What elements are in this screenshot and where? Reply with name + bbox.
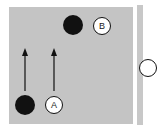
arrow-up-icon	[51, 48, 57, 91]
label-a: A	[51, 100, 57, 110]
filled-dot-a	[15, 95, 35, 115]
filled-dot-b	[63, 15, 83, 35]
side-open-circle	[139, 59, 157, 77]
label-b: B	[99, 21, 105, 31]
arrow-up-icon	[22, 48, 28, 91]
circle-b: B	[93, 17, 111, 35]
circle-a: A	[45, 96, 63, 114]
